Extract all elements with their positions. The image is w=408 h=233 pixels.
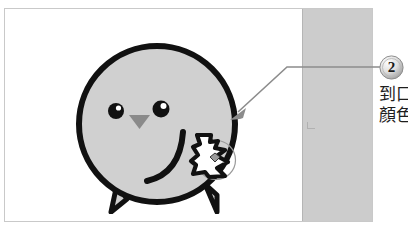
left-eye (108, 103, 124, 119)
chick-mascot (65, 29, 260, 214)
right-eye (153, 101, 170, 118)
page-canvas: 2 到口 顏色 (0, 0, 408, 233)
gray-column-band (302, 9, 373, 222)
right-foot (205, 184, 217, 212)
caption-line-1: 到口 (379, 84, 408, 105)
caption-line-2: 顏色 (379, 105, 408, 126)
right-eye-highlight (161, 103, 167, 109)
step-badge-2: 2 (379, 55, 404, 80)
left-eye-highlight (116, 105, 121, 110)
step-badge-label: 2 (379, 55, 404, 80)
figure-frame (4, 8, 373, 222)
band-corner-tick (307, 122, 315, 129)
callout-caption: 到口 顏色 (379, 84, 408, 132)
